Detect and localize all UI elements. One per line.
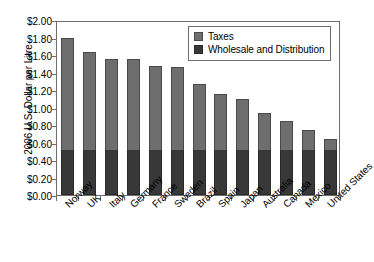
legend-item-label: Taxes	[208, 31, 234, 42]
bar-segment-wholesale	[105, 150, 118, 196]
bar-stack	[214, 94, 227, 196]
bar-segment-wholesale	[61, 150, 74, 196]
bar-stack	[83, 52, 96, 195]
x-axis-tick-mark	[56, 196, 57, 201]
bar-segment-taxes	[105, 59, 118, 150]
bar-segment-taxes	[61, 38, 74, 150]
y-axis-tick-label: $1.60	[4, 51, 52, 62]
y-axis-tick-label: $0.60	[4, 138, 52, 149]
bar-stack	[127, 59, 140, 195]
y-axis-tick-label: $1.00	[4, 103, 52, 114]
bar-segment-taxes	[280, 121, 293, 150]
bar-stack	[105, 59, 118, 196]
bar-stack	[171, 67, 184, 195]
legend-item: Taxes	[194, 30, 324, 43]
bar-segment-wholesale	[214, 150, 227, 196]
bar-stack	[236, 99, 249, 195]
bar-segment-taxes	[83, 52, 96, 149]
bar-stack	[258, 113, 271, 195]
bar-segment-taxes	[149, 66, 162, 150]
y-axis-tick-label: $1.20	[4, 86, 52, 97]
y-axis-tick-label: $0.40	[4, 156, 52, 167]
bar-segment-taxes	[302, 130, 315, 149]
bar-segment-wholesale	[127, 150, 140, 196]
bar-segment-taxes	[236, 99, 249, 150]
y-axis-tick-label: $0.20	[4, 173, 52, 184]
y-axis-tick-label: $0.80	[4, 121, 52, 132]
y-axis-tick-label: $2.00	[4, 16, 52, 27]
bar-segment-taxes	[193, 84, 206, 150]
bar-segment-taxes	[127, 59, 140, 149]
bar-segment-taxes	[258, 113, 271, 150]
y-axis-tick-label: $1.80	[4, 33, 52, 44]
bar-stack	[61, 38, 74, 196]
y-axis-tick-label: $0.00	[4, 191, 52, 202]
bar-segment-taxes	[324, 139, 337, 150]
y-axis-tick-label: $1.40	[4, 68, 52, 79]
legend-item-label: Wholesale and Distribution	[208, 44, 324, 55]
legend-item: Wholesale and Distribution	[194, 43, 324, 56]
bar-segment-taxes	[214, 94, 227, 150]
legend: TaxesWholesale and Distribution	[188, 26, 331, 61]
legend-swatch-icon	[194, 32, 203, 41]
legend-swatch-icon	[194, 45, 203, 54]
bar-segment-taxes	[171, 67, 184, 149]
